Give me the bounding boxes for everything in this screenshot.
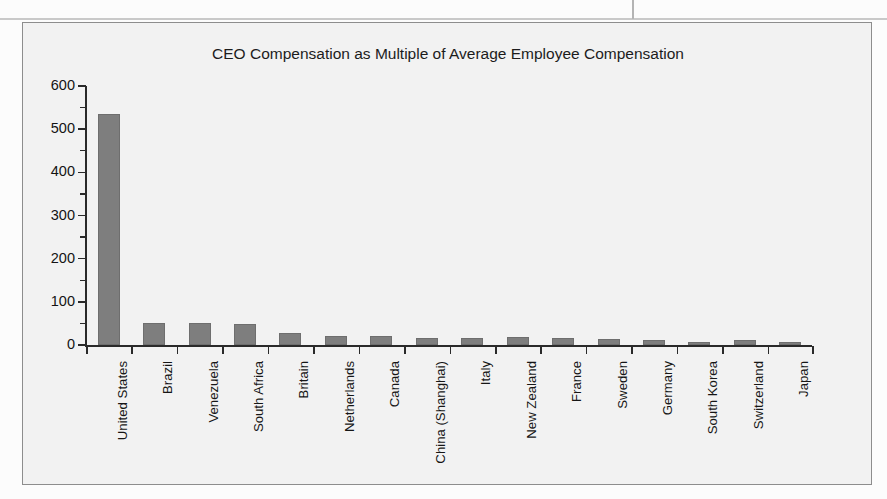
bar (552, 338, 574, 345)
x-tick-label: Sweden (615, 361, 630, 409)
x-tick (86, 346, 88, 354)
y-tick-label: 600 (29, 77, 75, 93)
x-tick-label: France (569, 361, 584, 402)
bar (370, 336, 392, 345)
bar (734, 340, 756, 345)
y-tick-label: 500 (29, 120, 75, 136)
bar (643, 340, 665, 345)
x-axis-line (85, 345, 812, 347)
x-tick (450, 346, 452, 354)
x-tick-label: Japan (796, 361, 811, 397)
x-tick (359, 346, 361, 354)
y-tick-major (78, 301, 86, 303)
bar (325, 336, 347, 345)
y-tick-major (78, 344, 86, 346)
bar (234, 324, 256, 345)
y-tick-minor (80, 236, 86, 237)
x-tick-label: Venezuela (206, 361, 221, 423)
y-tick-label: 100 (29, 293, 75, 309)
page-top-tick-mark (632, 0, 634, 19)
y-tick-label: 0 (29, 336, 75, 352)
x-tick (131, 346, 133, 354)
x-tick-label: Britain (296, 361, 311, 398)
x-tick (404, 346, 406, 354)
x-tick (313, 346, 315, 354)
y-tick-major (78, 172, 86, 174)
x-tick-label: Switzerland (751, 361, 766, 429)
bar (416, 338, 438, 345)
y-tick-label: 300 (29, 207, 75, 223)
x-tick-label: Brazil (160, 361, 175, 394)
x-tick (586, 346, 588, 354)
chart-title: CEO Compensation as Multiple of Average … (23, 45, 873, 63)
page-top-rule (0, 18, 887, 20)
x-tick (495, 346, 497, 354)
x-tick-label: South Africa (251, 361, 266, 432)
bar (461, 338, 483, 345)
y-tick-minor (80, 280, 86, 281)
y-tick-major (78, 85, 86, 87)
bar (98, 114, 120, 345)
bar (189, 323, 211, 345)
x-tick (812, 346, 814, 354)
bar (688, 342, 710, 345)
x-tick-label: Netherlands (342, 361, 357, 432)
x-tick-label: United States (115, 361, 130, 440)
x-tick (540, 346, 542, 354)
bar (598, 339, 620, 345)
x-tick (268, 346, 270, 354)
x-tick-label: Germany (660, 361, 675, 415)
y-tick-major (78, 258, 86, 260)
y-tick-major (78, 215, 86, 217)
chart-frame: CEO Compensation as Multiple of Average … (22, 22, 872, 485)
x-tick (677, 346, 679, 354)
y-tick-major (78, 128, 86, 130)
x-tick-label: New Zealand (524, 361, 539, 439)
page-background: CEO Compensation as Multiple of Average … (0, 0, 887, 499)
y-axis-labels: 0100200300400500600 (23, 23, 75, 486)
x-tick (768, 346, 770, 354)
y-tick-minor (80, 150, 86, 151)
bar (507, 337, 529, 345)
x-tick (631, 346, 633, 354)
y-tick-minor (80, 193, 86, 194)
y-tick-minor (80, 107, 86, 108)
x-tick-label: Canada (387, 361, 402, 407)
y-tick-minor (80, 323, 86, 324)
x-tick-label: China (Shanghai) (433, 361, 448, 464)
x-tick (177, 346, 179, 354)
y-tick-label: 400 (29, 163, 75, 179)
bar (779, 342, 801, 345)
x-tick (722, 346, 724, 354)
x-tick-label: Italy (478, 361, 493, 385)
y-tick-label: 200 (29, 250, 75, 266)
bar (143, 323, 165, 345)
x-tick-label: South Korea (705, 361, 720, 434)
bar (279, 333, 301, 345)
x-tick (222, 346, 224, 354)
